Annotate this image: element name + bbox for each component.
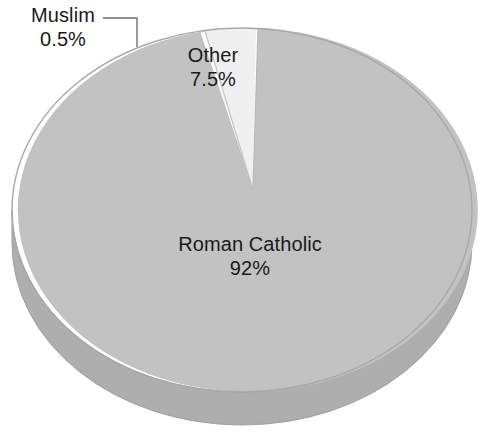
pie-top-face (12, 28, 478, 392)
pie-chart-graphic (0, 0, 483, 433)
muslim-leader-line-path (103, 18, 137, 47)
pie-chart: Muslim 0.5% Other 7.5% Roman Catholic 92… (0, 0, 483, 433)
muslim-leader-line (103, 18, 137, 47)
